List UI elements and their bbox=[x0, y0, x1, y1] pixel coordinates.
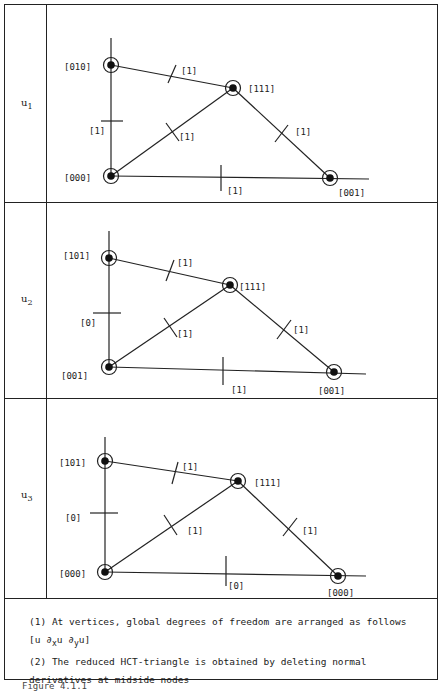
row-label: u1 bbox=[21, 97, 33, 111]
midside-label-right: [1] bbox=[302, 526, 318, 536]
vertex-label-origin: [000] bbox=[64, 173, 91, 183]
triangle-diagram: [010] [111] [000] [001] [1] [1] [1] [1] … bbox=[46, 5, 438, 201]
vertex-label-origin: [001] bbox=[61, 371, 88, 381]
midside-label-right: [1] bbox=[295, 127, 311, 137]
figure-table: u1 [010] [111] [00 bbox=[4, 4, 438, 680]
label-cell: u1 bbox=[5, 5, 47, 202]
midside-label-right: [1] bbox=[293, 325, 309, 335]
triangle-diagram: [101] [111] [001] [001] [1] [0] [1] [1] … bbox=[46, 203, 438, 397]
note-2-line-2: derivatives at midside nodes bbox=[29, 671, 437, 689]
vertex-label-apex: [111] bbox=[239, 282, 266, 292]
notes-cell: (1) At vertices, global degrees of freed… bbox=[5, 605, 437, 681]
vertex-label-bottom-right: [001] bbox=[318, 386, 345, 396]
figure-caption: Figure 4.1.1 bbox=[22, 681, 87, 691]
triangle-diagram: [101] [111] [000] [000] [1] [0] [1] [1] … bbox=[46, 399, 438, 597]
row-u2: u2 [101] [111] [00 bbox=[5, 203, 437, 399]
row-u3: u3 [101] [111] [00 bbox=[5, 399, 437, 599]
midside-label-diagonal: [1] bbox=[177, 329, 193, 339]
note-2-line-1: (2) The reduced HCT-triangle is obtained… bbox=[29, 653, 437, 671]
midside-label-top: [1] bbox=[177, 258, 193, 268]
vertex-label-bottom-right: [000] bbox=[327, 588, 354, 597]
midside-label-bottom: [0] bbox=[228, 581, 244, 591]
vertex-label-top-left: [101] bbox=[59, 458, 86, 468]
note-1: (1) At vertices, global degrees of freed… bbox=[29, 613, 437, 631]
row-label: u2 bbox=[21, 293, 33, 307]
row-u1: u1 [010] [111] [00 bbox=[5, 5, 437, 203]
midside-label-top: [1] bbox=[181, 66, 197, 76]
midside-label-bottom: [1] bbox=[227, 186, 243, 196]
vertex-label-bottom-right: [001] bbox=[338, 188, 365, 198]
row-label: u3 bbox=[21, 489, 33, 503]
midside-label-bottom: [1] bbox=[231, 385, 247, 395]
midside-label-left: [0] bbox=[80, 318, 96, 328]
midside-label-left: [0] bbox=[65, 513, 81, 523]
vertex-label-top-left: [010] bbox=[64, 62, 91, 72]
midside-label-top: [1] bbox=[182, 462, 198, 472]
vertex-label-apex: [111] bbox=[254, 478, 281, 488]
vertex-label-apex: [111] bbox=[248, 84, 275, 94]
vertex-label-origin: [000] bbox=[59, 569, 86, 579]
midside-label-left: [1] bbox=[89, 126, 105, 136]
midside-label-diagonal: [1] bbox=[187, 526, 203, 536]
label-cell: u2 bbox=[5, 203, 47, 398]
label-cell: u3 bbox=[5, 399, 47, 598]
note-1-formula: [u ∂xu ∂yu] bbox=[29, 631, 437, 653]
vertex-label-top-left: [101] bbox=[63, 251, 90, 261]
midside-label-diagonal: [1] bbox=[179, 132, 195, 142]
